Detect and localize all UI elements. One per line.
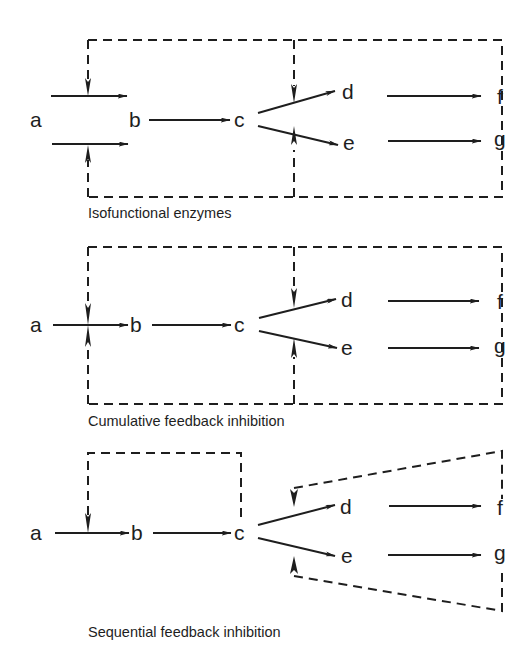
node-g: g xyxy=(494,541,506,564)
reaction-arrow-c-d xyxy=(259,299,336,318)
panel-caption: Cumulative feedback inhibition xyxy=(88,413,285,429)
inhibition-arrow-icon xyxy=(85,325,91,347)
node-e: e xyxy=(341,336,353,359)
pathway-diagram: a b c d e f g Isofunctional enzymes a b … xyxy=(0,0,531,658)
node-e: e xyxy=(343,131,355,154)
inhibition-arrow-icon xyxy=(291,338,297,358)
node-d: d xyxy=(340,495,352,518)
inhibition-arrow-icon xyxy=(85,513,91,533)
inhibition-arrow-icon xyxy=(291,288,297,308)
inhibition-arrow-icon xyxy=(85,78,91,96)
node-f: f xyxy=(497,85,503,108)
node-b: b xyxy=(129,108,141,131)
node-f: f xyxy=(497,290,503,313)
node-c: c xyxy=(234,108,245,131)
node-a: a xyxy=(30,108,42,131)
feedback-loop-f-to-c xyxy=(294,451,502,499)
panel-sequential-feedback-inhibition: a b c d e f g Sequential feedback inhibi… xyxy=(30,451,506,640)
inhibition-arrow-icon xyxy=(291,84,297,103)
panel-caption: Isofunctional enzymes xyxy=(88,205,231,221)
inhibition-arrow-icon xyxy=(85,303,91,325)
node-b: b xyxy=(130,313,142,336)
node-a: a xyxy=(30,521,42,544)
reaction-arrow-c-e xyxy=(258,126,338,145)
inhibition-arrow-icon xyxy=(290,489,298,507)
panel-caption: Sequential feedback inhibition xyxy=(88,624,281,640)
reaction-arrow-c-d xyxy=(258,505,335,525)
node-g: g xyxy=(494,127,506,150)
panel-cumulative-feedback-inhibition: a b c d e f g Cumulative feedback inhibi… xyxy=(30,247,506,429)
node-a: a xyxy=(30,313,42,336)
node-b: b xyxy=(131,521,143,544)
node-c: c xyxy=(234,313,245,336)
node-g: g xyxy=(494,334,506,357)
node-f: f xyxy=(497,496,503,519)
feedback-loop-c-to-a xyxy=(88,453,241,518)
node-d: d xyxy=(342,80,354,103)
node-d: d xyxy=(341,288,353,311)
node-c: c xyxy=(234,521,245,544)
reaction-arrow-c-e xyxy=(259,331,337,348)
reaction-arrow-c-e xyxy=(258,538,335,556)
node-e: e xyxy=(341,544,353,567)
panel-isofunctional-enzymes: a b c d e f g Isofunctional enzymes xyxy=(30,40,506,221)
feedback-loop-g-to-c xyxy=(294,572,502,611)
reaction-arrow-c-d xyxy=(258,91,335,113)
inhibition-arrow-icon xyxy=(290,556,298,574)
